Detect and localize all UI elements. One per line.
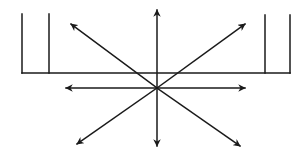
- arrow-up-right-icon: [157, 24, 245, 88]
- arrow-group: [66, 10, 245, 146]
- radial-arrows-diagram: [0, 0, 306, 158]
- arrow-up-left-icon: [71, 24, 157, 88]
- diagram-canvas: Radial arrows from a central point below…: [0, 0, 306, 158]
- bracket-structure: [22, 14, 290, 73]
- arrow-down-right-icon: [157, 88, 240, 146]
- arrow-down-left-icon: [77, 88, 157, 144]
